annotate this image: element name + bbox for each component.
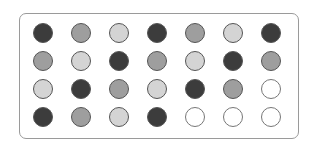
circle-dark: [223, 51, 243, 71]
circle-empty: [261, 107, 281, 127]
circle-dark: [33, 107, 53, 127]
circle-light: [147, 79, 167, 99]
circle-light: [185, 51, 205, 71]
circle-mid: [147, 51, 167, 71]
circle-dark: [261, 23, 281, 43]
circle-mid: [109, 79, 129, 99]
circle-empty: [185, 107, 205, 127]
circle-light: [109, 107, 129, 127]
circle-mid: [223, 79, 243, 99]
circle-mid: [71, 107, 91, 127]
circle-light: [33, 79, 53, 99]
circle-dark: [147, 107, 167, 127]
circle-dark: [109, 51, 129, 71]
circle-dark: [185, 79, 205, 99]
circle-mid: [33, 51, 53, 71]
circle-empty: [223, 107, 243, 127]
circle-mid: [71, 23, 91, 43]
circle-light: [109, 23, 129, 43]
circle-light: [223, 23, 243, 43]
circle-dark: [147, 23, 167, 43]
circle-mid: [261, 51, 281, 71]
circle-dark: [71, 79, 91, 99]
circle-dark: [33, 23, 53, 43]
circle-empty: [261, 79, 281, 99]
circle-mid: [185, 23, 205, 43]
circle-light: [71, 51, 91, 71]
